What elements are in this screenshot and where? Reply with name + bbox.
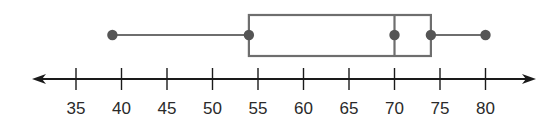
number-line [32,74,536,84]
tick-label: 60 [294,99,313,118]
tick-label: 65 [340,99,359,118]
tick-label: 70 [385,99,404,118]
median-point [389,30,399,40]
tick-label: 40 [112,99,131,118]
tick-labels: 35404550556065707580 [67,99,495,118]
tick-label: 35 [67,99,86,118]
q1-point [244,30,254,40]
tick-label: 75 [431,99,450,118]
max-point [480,30,490,40]
box-and-whiskers [107,15,490,56]
tick-label: 55 [249,99,268,118]
tick-label: 50 [203,99,222,118]
q3-point [426,30,436,40]
tick-label: 45 [158,99,177,118]
box-plot: 35404550556065707580 [0,0,555,129]
tick-label: 80 [476,99,495,118]
min-point [107,30,117,40]
iqr-box [249,15,431,56]
